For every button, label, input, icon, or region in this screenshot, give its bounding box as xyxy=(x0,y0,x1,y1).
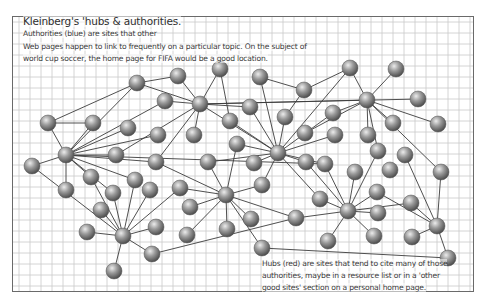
caption-line-2: authorities, maybe in a resource list or… xyxy=(262,271,440,280)
figure-title: Kleinberg's 'hubs & authorities. xyxy=(23,15,181,27)
intro-line-2: Web pages happen to link to frequently o… xyxy=(23,42,307,51)
hubs-authorities-figure: Kleinberg's 'hubs & authorities. Authori… xyxy=(0,0,487,302)
intro-line-3: world cup soccer, the home page for FIFA… xyxy=(23,54,268,63)
caption-line-3: good sites' section on a personal home p… xyxy=(262,283,426,292)
caption-line-1: Hubs (red) are sites that tend to cite m… xyxy=(262,259,447,268)
intro-line-1: Authorities (blue) are sites that other xyxy=(23,29,157,38)
